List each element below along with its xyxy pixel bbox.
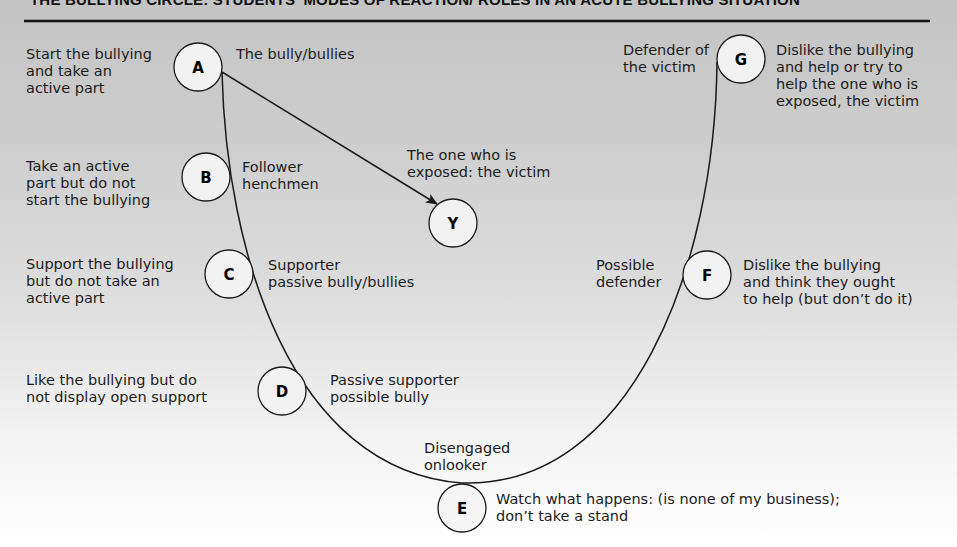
node-y-victim[interactable]: Y <box>429 199 477 247</box>
node-a-description: Start the bullying and take an active pa… <box>26 46 152 97</box>
node-g-description: Dislike the bullying and help or try to … <box>776 42 919 110</box>
node-c-letter: C <box>223 266 234 284</box>
node-e[interactable]: E <box>438 484 486 532</box>
node-f-role: Possible defender <box>596 257 661 291</box>
node-e-role: Disengaged onlooker <box>424 440 510 474</box>
node-e-description: Watch what happens: (is none of my busin… <box>496 491 840 525</box>
node-d-letter: D <box>276 383 288 401</box>
node-a[interactable]: A <box>174 43 222 91</box>
node-c-description: Support the bullying but do not take an … <box>26 256 174 307</box>
node-g[interactable]: G <box>717 35 765 83</box>
node-y-letter: Y <box>447 215 460 233</box>
node-f-letter: F <box>702 267 712 285</box>
node-g-letter: G <box>735 51 747 69</box>
node-g-role: Defender of the victim <box>623 42 709 76</box>
node-d-description: Like the bullying but do not display ope… <box>26 372 207 406</box>
node-b-role: Follower henchmen <box>242 159 319 193</box>
node-c-role: Supporter passive bully/bullies <box>268 257 414 291</box>
node-d[interactable]: D <box>258 367 306 415</box>
node-f[interactable]: F <box>683 251 731 299</box>
node-b[interactable]: B <box>182 153 230 201</box>
node-a-role: The bully/bullies <box>236 46 354 63</box>
node-b-description: Take an active part but do not start the… <box>26 158 150 209</box>
node-d-role: Passive supporter possible bully <box>330 372 459 406</box>
node-e-letter: E <box>457 500 467 518</box>
node-a-letter: A <box>192 59 204 77</box>
node-y-role: The one who is exposed: the victim <box>407 147 550 181</box>
node-c[interactable]: C <box>205 250 253 298</box>
node-b-letter: B <box>200 169 211 187</box>
node-f-description: Dislike the bullying and think they ough… <box>743 257 913 308</box>
